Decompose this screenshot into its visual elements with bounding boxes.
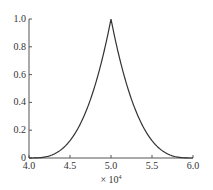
y-tick-label: 0.6: [14, 69, 27, 80]
plot-area: 00.20.40.60.81.04.04.55.05.56.0× 104: [14, 13, 200, 185]
x-axis-multiplier-label: × 104: [100, 174, 121, 185]
x-tick-label: 6.0: [187, 160, 200, 171]
x-tick-label: 5.5: [146, 160, 159, 171]
x-tick-label: 4.5: [64, 160, 77, 171]
y-tick-label: 0.2: [14, 124, 27, 135]
y-tick-label: 1.0: [14, 13, 27, 24]
x-tick-label: 5.0: [105, 160, 118, 171]
chart: 00.20.40.60.81.04.04.55.05.56.0× 104: [0, 0, 213, 190]
y-tick-label: 0.8: [14, 41, 27, 52]
y-tick-label: 0.4: [14, 96, 27, 107]
series-line: [29, 19, 193, 158]
x-tick-label: 4.0: [23, 160, 36, 171]
